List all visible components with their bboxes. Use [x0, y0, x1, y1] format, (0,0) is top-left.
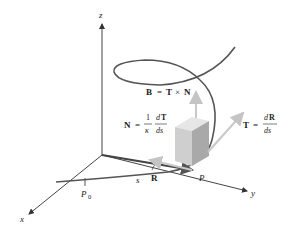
- y-axis: [102, 155, 247, 191]
- x-axis-label: x: [19, 214, 24, 224]
- binormal-formula: B = T × N: [146, 87, 191, 97]
- cube: [175, 117, 209, 166]
- svg-text:κ: κ: [145, 126, 149, 135]
- r-label: R: [151, 173, 158, 183]
- svg-text:N: N: [124, 120, 131, 130]
- y-axis-label: y: [250, 188, 255, 198]
- tangent-formula: T = d R ds: [243, 113, 277, 135]
- point-p0-subscript: 0: [88, 193, 91, 200]
- svg-text:T: T: [243, 120, 249, 130]
- z-axis-label: z: [98, 10, 103, 20]
- point-p-label: P: [198, 173, 205, 183]
- svg-text:=: =: [135, 120, 140, 130]
- svg-text:T: T: [166, 87, 172, 97]
- svg-text:1: 1: [146, 113, 150, 122]
- svg-text:T: T: [161, 113, 167, 122]
- x-axis: [29, 155, 102, 214]
- tnb-diagram: z x y P P 0 s R B = T × N N = 1 κ d T ds…: [0, 0, 289, 234]
- svg-text:=: =: [253, 120, 258, 130]
- r-leader: [152, 164, 155, 170]
- svg-text:N: N: [184, 87, 191, 97]
- point-p0-label: P: [80, 189, 87, 199]
- svg-text:B: B: [146, 87, 152, 97]
- svg-text:ds: ds: [264, 126, 271, 135]
- svg-text:=: =: [157, 87, 162, 97]
- svg-text:ds: ds: [156, 126, 163, 135]
- arc-length-label: s: [136, 175, 140, 185]
- svg-text:×: ×: [175, 87, 180, 97]
- normal-formula: N = 1 κ d T ds: [124, 113, 167, 135]
- svg-text:R: R: [269, 113, 275, 122]
